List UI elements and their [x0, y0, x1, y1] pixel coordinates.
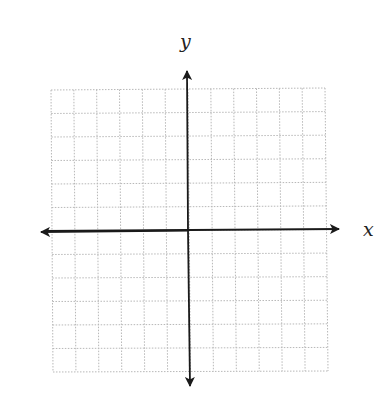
y-axis-neg — [188, 230, 190, 386]
grid-line-horizontal — [52, 277, 327, 278]
coordinate-plane: x y — [0, 0, 387, 399]
y-axis-label: y — [179, 30, 191, 52]
y-axis — [187, 71, 188, 230]
x-axis-label: x — [363, 218, 374, 240]
